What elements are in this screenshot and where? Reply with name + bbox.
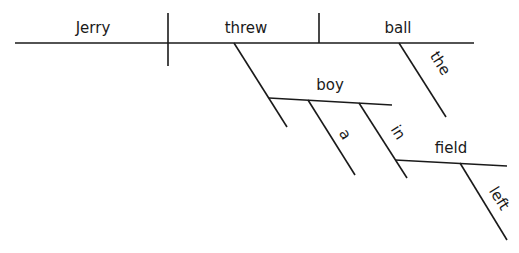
- prepositional-object-line: [395, 160, 507, 166]
- word-object: ball: [384, 19, 411, 37]
- word-left: left: [485, 183, 513, 213]
- word-indirect-object: boy: [316, 76, 344, 94]
- indirect-object-line: [269, 98, 392, 105]
- sentence-diagram: Jerry threw ball boy field the a in left: [0, 0, 519, 253]
- word-in: in: [387, 122, 410, 143]
- word-prepositional-object: field: [435, 139, 467, 157]
- word-a: a: [335, 126, 355, 143]
- word-the: the: [426, 48, 454, 78]
- word-subject: Jerry: [75, 19, 111, 37]
- word-verb: threw: [225, 19, 268, 37]
- verb-diagonal: [234, 43, 287, 127]
- preposition-in-line: [359, 103, 407, 178]
